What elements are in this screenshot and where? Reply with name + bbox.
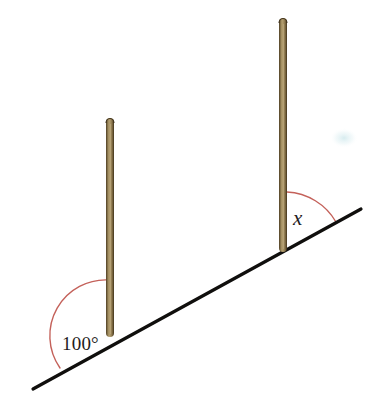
- angle-x-label: x: [292, 206, 303, 230]
- diagram-canvas: 100° x: [0, 0, 384, 407]
- diagram-background: [0, 0, 384, 407]
- right-pole: [279, 18, 287, 252]
- angle-100-degrees-label: 100°: [62, 333, 99, 354]
- geometry-diagram: 100° x: [0, 0, 384, 407]
- scan-smudge-artifact: [330, 128, 358, 148]
- left-pole: [106, 118, 114, 337]
